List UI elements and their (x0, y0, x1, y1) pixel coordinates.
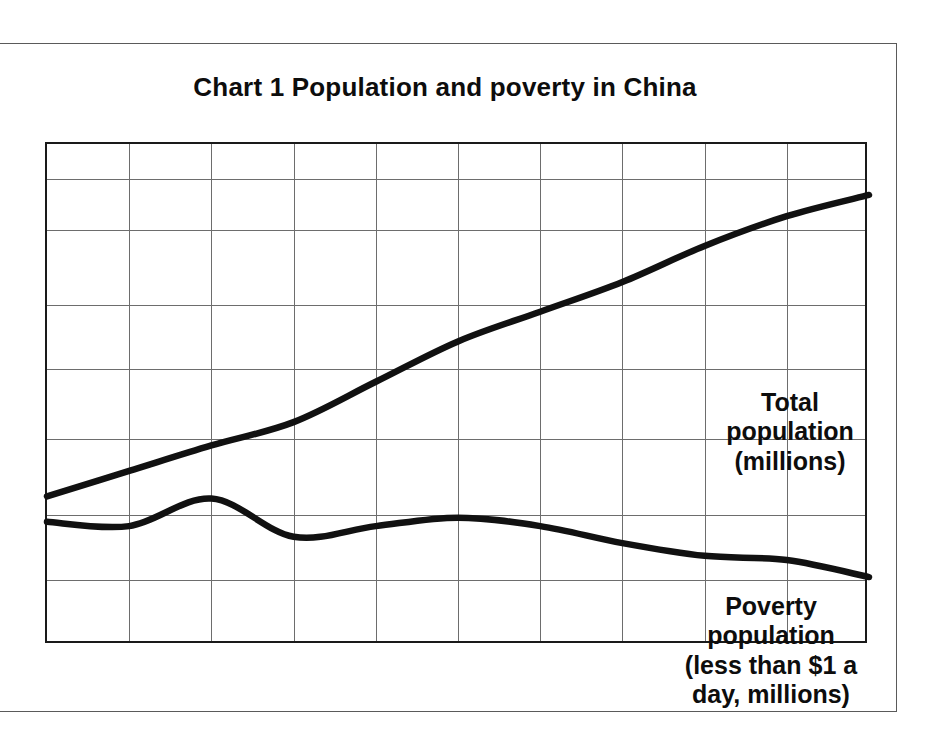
annotation-total-population: Total population (millions) (685, 388, 895, 476)
series-line-poverty-population (47, 498, 869, 577)
annotation-poverty-population: Poverty population (less than $1 a day, … (641, 592, 901, 709)
plot-wrapper: Total population (millions) Poverty popu… (45, 142, 867, 643)
chart-title: Chart 1 Population and poverty in China (0, 72, 890, 103)
